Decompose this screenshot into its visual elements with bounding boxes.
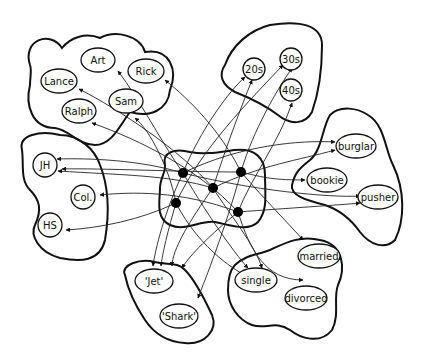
label-20s: 20s [245,64,263,75]
label-art: Art [91,55,106,66]
network-diagram: Art Rick Lance Sam Ralph 20s 30s 40s JH … [0,0,424,361]
label-pusher: pusher [361,192,396,203]
label-married: married [299,251,338,262]
label-single: single [241,275,271,286]
hub-unit [178,168,188,178]
label-shark: 'Shark' [162,311,196,322]
hub-units [171,167,246,217]
hub-unit [171,198,181,208]
label-burglar: burglar [338,141,375,152]
label-divorced: divorced [284,293,327,304]
label-jh: JH [39,160,50,171]
label-40s: 40s [282,85,300,96]
label-lance: Lance [44,76,74,87]
ages-group [222,23,322,122]
label-rick: Rick [135,66,156,77]
hub-unit [233,207,243,217]
hub-unit [208,183,218,193]
label-jet: 'Jet' [145,276,164,287]
label-col: Col. [73,192,92,203]
label-bookie: bookie [310,175,343,186]
label-ralph: Ralph [65,106,93,117]
hub-unit [236,167,246,177]
label-30s: 30s [282,54,300,65]
label-hs: HS [43,220,57,231]
label-sam: Sam [115,96,137,107]
